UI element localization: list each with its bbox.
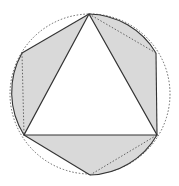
geometry-diagram [0,0,179,186]
shaded-region-bottom [24,135,157,175]
